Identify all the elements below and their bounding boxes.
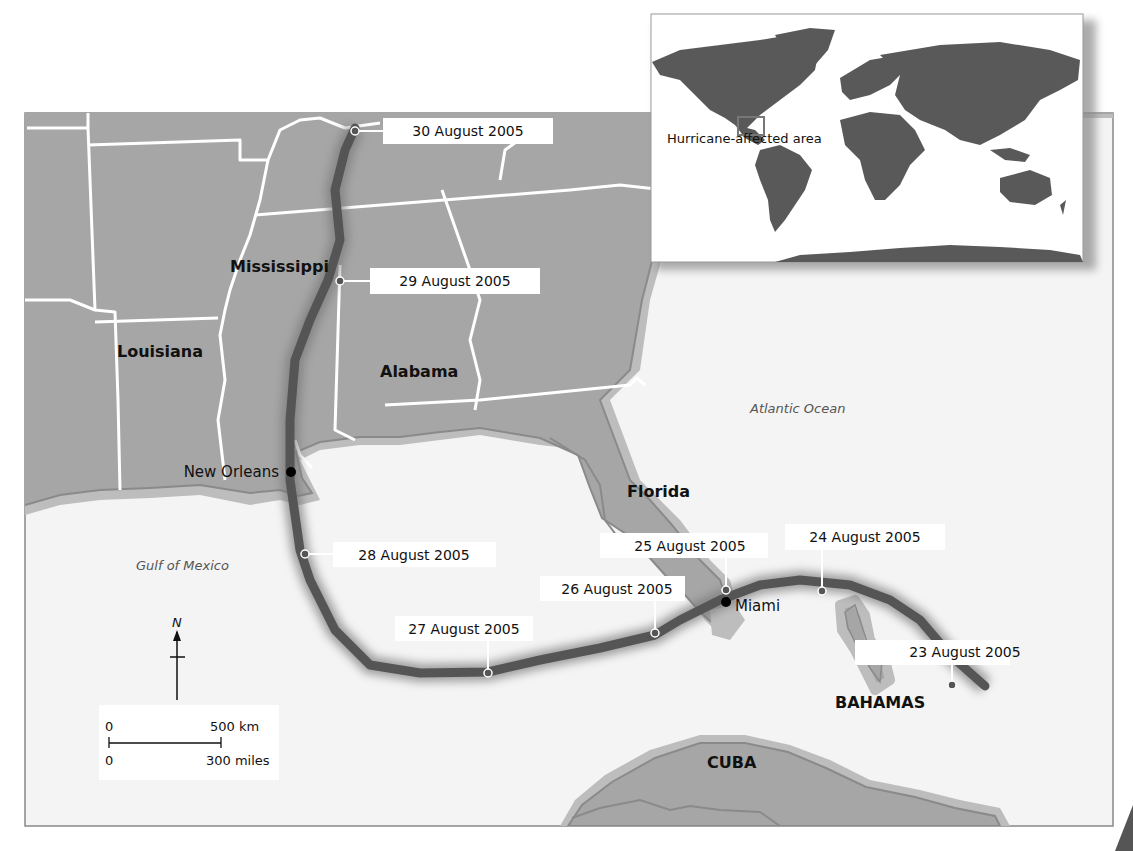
country-label-bahamas: BAHAMAS bbox=[835, 693, 925, 712]
state-label-alabama: Alabama bbox=[380, 362, 458, 381]
date-label-25-aug: 25 August 2005 bbox=[634, 538, 745, 554]
scale-mi-max: 300 miles bbox=[206, 753, 270, 768]
water-label-gulf: Gulf of Mexico bbox=[136, 558, 229, 573]
corner-decoration bbox=[1115, 805, 1133, 851]
state-label-louisiana: Louisiana bbox=[117, 342, 203, 361]
hurricane-map: 30 August 2005 29 August 2005 28 August … bbox=[0, 0, 1133, 851]
city-label-miami: Miami bbox=[735, 597, 780, 615]
date-label-24-aug: 24 August 2005 bbox=[809, 529, 920, 545]
date-label-28-aug: 28 August 2005 bbox=[358, 547, 469, 563]
state-label-mississippi: Mississippi bbox=[230, 257, 329, 276]
scale-mi-zero: 0 bbox=[105, 753, 113, 768]
country-label-cuba: CUBA bbox=[707, 753, 757, 772]
new-orleans-marker bbox=[286, 467, 296, 477]
inset-label-affected-area: Hurricane-affected area bbox=[667, 131, 822, 146]
city-label-new-orleans: New Orleans bbox=[184, 463, 280, 481]
compass-north-label: N bbox=[172, 615, 182, 630]
water-label-atlantic: Atlantic Ocean bbox=[749, 401, 845, 416]
date-label-29-aug: 29 August 2005 bbox=[399, 273, 510, 289]
scale-km-zero: 0 bbox=[105, 719, 113, 734]
date-label-27-aug: 27 August 2005 bbox=[408, 621, 519, 637]
date-label-23-aug: 23 August 2005 bbox=[909, 644, 1020, 660]
scale-km-max: 500 km bbox=[210, 719, 259, 734]
date-label-30-aug: 30 August 2005 bbox=[412, 123, 523, 139]
miami-marker bbox=[721, 597, 731, 607]
date-label-26-aug: 26 August 2005 bbox=[561, 581, 672, 597]
state-label-florida: Florida bbox=[627, 482, 690, 501]
